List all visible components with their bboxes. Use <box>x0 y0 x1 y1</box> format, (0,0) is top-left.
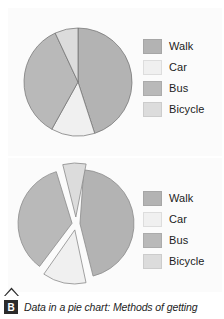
pie-chart-exploded-plot <box>10 158 144 294</box>
legend-item-bicycle[interactable]: Bicycle <box>143 99 205 120</box>
caption-text: Data in a pie chart: Methods of getting <box>24 301 198 313</box>
legend-label-walk: Walk <box>169 192 193 205</box>
legend-label-bus: Bus <box>169 82 188 95</box>
legend-item-car[interactable]: Car <box>143 57 205 78</box>
legend-swatch-bicycle <box>143 102 162 117</box>
legend-swatch-walk <box>143 191 162 206</box>
legend-item-walk[interactable]: Walk <box>143 188 205 209</box>
legend-exploded: Walk Car Bus Bicycle <box>143 188 205 272</box>
legend-label-bus: Bus <box>169 234 188 247</box>
pie-slice-walk[interactable] <box>80 170 134 276</box>
legend-item-bicycle[interactable]: Bicycle <box>143 251 205 272</box>
legend-label-bicycle: Bicycle <box>169 255 205 268</box>
pie-chart-standard-plot <box>18 22 138 144</box>
legend-swatch-bicycle <box>143 254 162 269</box>
legend-swatch-bus <box>143 233 162 248</box>
legend-label-bicycle: Bicycle <box>169 103 205 116</box>
pie-chart-standard: Walk Car Bus Bicycle <box>0 0 224 156</box>
legend-label-walk: Walk <box>169 40 193 53</box>
legend-swatch-car <box>143 60 162 75</box>
caption-badge: B <box>4 300 18 314</box>
legend-item-bus[interactable]: Bus <box>143 230 205 251</box>
legend-label-car: Car <box>169 213 187 226</box>
figure-caption: B Data in a pie chart: Methods of gettin… <box>4 296 224 318</box>
pie-chart-exploded-svg <box>10 158 144 294</box>
legend-swatch-bus <box>143 81 162 96</box>
figure-page: Walk Car Bus Bicycle Walk <box>0 0 224 319</box>
legend-item-bus[interactable]: Bus <box>143 78 205 99</box>
legend-label-car: Car <box>169 61 187 74</box>
legend-item-walk[interactable]: Walk <box>143 36 205 57</box>
pie-chart-exploded: Walk Car Bus Bicycle <box>0 156 224 294</box>
legend-item-car[interactable]: Car <box>143 209 205 230</box>
legend-standard: Walk Car Bus Bicycle <box>143 36 205 120</box>
legend-swatch-car <box>143 212 162 227</box>
pie-chart-standard-svg <box>18 22 138 144</box>
legend-swatch-walk <box>143 39 162 54</box>
